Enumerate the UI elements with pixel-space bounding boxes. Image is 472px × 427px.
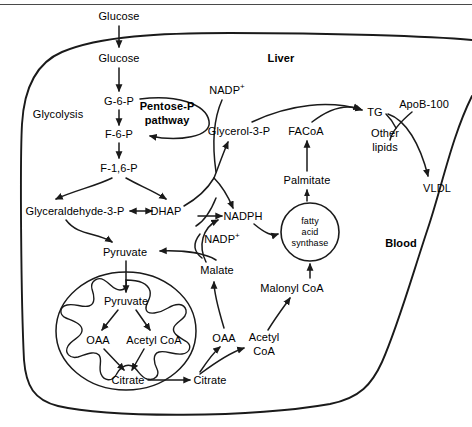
- compartment-label-liver: Liver: [268, 52, 295, 64]
- node-label-apob-100: ApoB-100: [399, 98, 449, 110]
- arrow-acetylcoa-mito-to-citrate: [132, 349, 144, 370]
- nadp-lower-text: NADP: [204, 233, 235, 245]
- node-label-nadp-plus-lower: NADP+: [204, 233, 240, 245]
- curve-malate-to-pyruvate: [160, 251, 216, 260]
- nadp-upper-superscript: +: [240, 82, 245, 91]
- curve-g3p-to-pyruvate: [66, 220, 112, 242]
- arrow-citrate-cyto-to-oaa: [200, 347, 220, 372]
- node-label-other-lipids-line2: lipids: [372, 142, 398, 154]
- arrow-oaa-mito-to-citrate: [104, 349, 124, 370]
- curve-node-inlet-left: [196, 198, 216, 226]
- node-label-glycerol-3-p: Glycerol-3-P: [208, 125, 270, 137]
- node-label-nadph: NADPH: [223, 210, 262, 222]
- curve-acetylcoa-to-malonylcoa: [268, 298, 290, 330]
- node-label-acetyl-coa-cytosol-line1: Acetyl: [249, 332, 280, 344]
- pentose-pathway-label-line1: Pentose-P: [140, 101, 195, 113]
- pentose-pathway-label-line2: pathway: [145, 115, 190, 127]
- curve-tg-to-other-lipids: [386, 114, 396, 128]
- pathway-diagram-figure: Glucose Glucose G-6-P Glycolysis Pentose…: [0, 0, 472, 427]
- curve-facoa-to-tg: [312, 107, 360, 122]
- arrow-pyruvate-to-oaa-mito: [102, 310, 118, 330]
- node-label-glucose-liver: Glucose: [98, 52, 139, 64]
- node-label-acetyl-coa-cytosol-line2: CoA: [253, 346, 275, 358]
- curve-nadph-to-fas: [254, 224, 278, 235]
- liver-cell-membrane: [21, 33, 472, 415]
- node-label-pyruvate-mitochondrion: Pyruvate: [104, 295, 148, 307]
- arrow-citrate-cyto-to-acetylcoa: [200, 348, 244, 374]
- node-label-glyceraldehyde-3-p: Glyceraldehyde-3-P: [25, 205, 124, 217]
- node-label-oaa-cytosol: OAA: [212, 332, 236, 344]
- node-label-glucose-blood: Glucose: [98, 10, 139, 22]
- node-label-f6p: F-6-P: [105, 128, 133, 140]
- node-label-oaa-mitochondrion: OAA: [86, 334, 110, 346]
- node-label-dhap: DHAP: [151, 205, 182, 217]
- node-label-f16p: F-1,6-P: [100, 162, 137, 174]
- nadp-lower-superscript: +: [235, 231, 240, 240]
- node-label-malate: Malate: [200, 264, 234, 276]
- node-label-malonyl-coa: Malonyl CoA: [260, 282, 323, 294]
- node-label-facoa: FACoA: [288, 125, 323, 137]
- arrow-pyruvate-to-acetylcoa-mito: [136, 310, 150, 330]
- node-label-nadp-plus-upper: NADP+: [209, 84, 245, 96]
- node-label-other-lipids-line1: Other: [371, 128, 399, 140]
- curve-dhap-node-crossing: [214, 178, 233, 208]
- fatty-acid-synthase-label-line2: acid: [302, 227, 319, 237]
- compartment-label-blood: Blood: [385, 237, 417, 249]
- fatty-acid-synthase-label-line1: fatty: [301, 216, 319, 226]
- node-label-tg: TG: [367, 106, 382, 118]
- fatty-acid-synthase-label-line3: synthase: [292, 238, 329, 248]
- node-label-citrate-mitochondrion: Citrate: [111, 374, 144, 386]
- node-label-g6p: G-6-P: [104, 95, 134, 107]
- nadp-upper-text: NADP: [209, 84, 240, 96]
- node-label-acetyl-coa-mitochondrion: Acetyl CoA: [126, 334, 181, 346]
- node-label-pyruvate-cytosol: Pyruvate: [103, 246, 147, 258]
- node-label-palmitate: Palmitate: [284, 174, 331, 186]
- curve-oaa-to-malate: [214, 282, 224, 328]
- curve-f16p-to-glyceraldehyde3p: [56, 178, 112, 199]
- node-label-glycolysis: Glycolysis: [33, 108, 84, 120]
- curve-f16p-to-dhap: [126, 178, 166, 199]
- node-label-citrate-cytosol: Citrate: [193, 374, 226, 386]
- node-label-vldl: VLDL: [423, 182, 451, 194]
- curve-dhap-node-left: [184, 178, 214, 206]
